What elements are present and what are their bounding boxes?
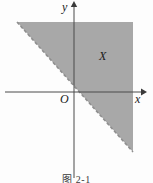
coordinate-plot xyxy=(0,0,153,183)
x-axis-arrowhead xyxy=(141,89,147,96)
y-axis-arrowhead xyxy=(71,1,77,7)
figure-container: y x O X 图 2-1 xyxy=(0,0,153,183)
y-axis-label: y xyxy=(62,1,67,13)
origin-label: O xyxy=(60,93,69,105)
region-label-x: X xyxy=(99,50,106,62)
figure-caption: 图 2-1 xyxy=(0,171,153,183)
x-axis-label: x xyxy=(135,93,140,105)
